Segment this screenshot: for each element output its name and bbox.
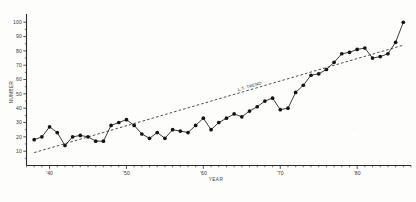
y-tick-label: 50 (16, 91, 22, 97)
data-point-marker (294, 91, 298, 95)
data-point-marker (63, 144, 67, 148)
y-tick-label: 20 (16, 134, 22, 140)
y-tick-label: 80 (16, 48, 22, 54)
data-point-marker (363, 46, 367, 50)
data-point-marker (225, 116, 229, 120)
data-point-marker (271, 96, 275, 100)
data-point-marker (286, 106, 290, 110)
data-point-marker (202, 116, 206, 120)
x-tick-label: '40 (46, 170, 53, 176)
data-point-marker (278, 108, 282, 112)
data-point-marker (309, 73, 313, 77)
y-axis-title: NUMBER (9, 80, 14, 103)
data-point-marker (94, 139, 98, 143)
data-point-marker (71, 135, 75, 139)
data-point-marker (401, 20, 405, 24)
data-series-line (34, 22, 403, 145)
x-tick-label: '60 (200, 170, 207, 176)
data-point-marker (178, 129, 182, 133)
y-tick-label: 100 (13, 19, 22, 25)
data-point-marker (163, 136, 167, 140)
y-tick-label: 10 (16, 148, 22, 154)
data-point-marker (301, 83, 305, 87)
x-axis-tick-labels: '40'50'60'70'80 (46, 170, 361, 176)
data-point-marker (32, 138, 36, 142)
data-point-marker (355, 48, 359, 52)
data-point-marker (140, 132, 144, 136)
x-tick-label: '50 (123, 170, 130, 176)
y-tick-label: 40 (16, 105, 22, 111)
y-axis-tick-labels: 102030405060708090100 (13, 19, 22, 154)
data-point-marker (317, 72, 321, 76)
data-point-marker (155, 131, 159, 135)
data-point-marker (348, 50, 352, 54)
data-point-marker (117, 121, 121, 125)
data-point-marker (248, 109, 252, 113)
data-point-marker (386, 52, 390, 56)
x-axis-title: YEAR (209, 177, 224, 182)
y-tick-label: 30 (16, 119, 22, 125)
data-point-marker (48, 125, 52, 129)
data-point-marker (86, 135, 90, 139)
data-point-marker (217, 121, 221, 125)
data-point-marker (148, 136, 152, 140)
data-point-marker (340, 52, 344, 56)
data-point-marker (55, 131, 59, 135)
data-point-marker (171, 128, 175, 132)
data-point-marker (255, 105, 259, 109)
data-point-marker (186, 131, 190, 135)
data-point-marker (378, 55, 382, 59)
data-point-marker (232, 112, 236, 116)
y-tick-label: 90 (16, 33, 22, 39)
data-point-marker (325, 68, 329, 72)
data-series-markers (32, 20, 405, 147)
data-point-marker (194, 124, 198, 128)
data-point-marker (332, 60, 336, 64)
chart-plot-area: 102030405060708090100 '40'50'60'70'80 NU… (0, 0, 416, 202)
data-point-marker (78, 134, 82, 138)
data-point-marker (132, 124, 136, 128)
y-tick-label: 70 (16, 62, 22, 68)
data-point-marker (209, 128, 213, 132)
y-tick-label: 60 (16, 76, 22, 82)
data-point-marker (109, 124, 113, 128)
chart-figure: 102030405060708090100 '40'50'60'70'80 NU… (0, 0, 416, 202)
data-point-marker (394, 40, 398, 44)
x-tick-label: '70 (277, 170, 284, 176)
data-point-marker (40, 135, 44, 139)
data-point-marker (371, 56, 375, 60)
data-point-marker (263, 99, 267, 103)
trend-line-label: L.T. TREND (237, 80, 262, 92)
data-point-marker (125, 118, 129, 122)
x-tick-label: '80 (354, 170, 361, 176)
data-point-marker (240, 115, 244, 119)
data-point-marker (102, 139, 106, 143)
